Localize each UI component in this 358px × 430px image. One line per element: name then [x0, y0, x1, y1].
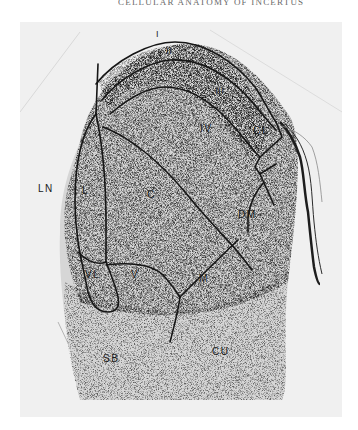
histology-figure: I II III IV CL LN L C DM VL V M SB CU	[20, 22, 342, 417]
running-header: CELLULAR ANATOMY OF INCERTUS	[118, 0, 358, 6]
label-V: V	[131, 269, 139, 280]
label-CL: CL	[253, 125, 269, 136]
label-LN: LN	[38, 183, 54, 194]
label-C: C	[147, 189, 156, 200]
label-layer-III: III	[215, 86, 224, 96]
label-CU: CU	[212, 346, 229, 357]
label-L: L	[82, 185, 89, 196]
label-DM: DM	[238, 209, 257, 220]
label-SB: SB	[103, 353, 119, 364]
section-micrograph: I II III IV CL LN L C DM VL V M SB CU	[20, 22, 342, 417]
label-M: M	[199, 273, 209, 284]
label-VL: VL	[85, 269, 100, 280]
label-layer-IV: IV	[200, 123, 212, 134]
label-layer-I: I	[156, 29, 159, 39]
label-layer-II: II	[166, 46, 172, 56]
